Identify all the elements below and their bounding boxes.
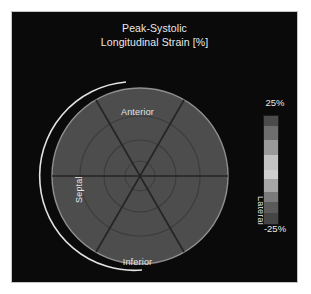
colorbar-gradient-strip [263, 115, 279, 225]
colorbar-min-label: -25% [252, 223, 298, 234]
plot-panel: Peak-Systolic Longitudinal Strain [%] [11, 11, 298, 283]
figure-root: Peak-Systolic Longitudinal Strain [%] [0, 0, 311, 294]
title-line-2: Longitudinal Strain [%] [12, 35, 297, 49]
label-septal: Septal [74, 176, 84, 203]
label-inferior: Inferior [30, 257, 245, 267]
title-line-1: Peak-Systolic [12, 21, 297, 35]
colorbar-max-label: 25% [252, 97, 298, 108]
label-anterior: Anterior [30, 107, 245, 117]
bullseye-plot[interactable]: Anterior Inferior Septal Lateral [30, 56, 245, 278]
bullseye-svg [30, 56, 245, 278]
page-title: Peak-Systolic Longitudinal Strain [%] [12, 21, 297, 49]
colorbar-legend: 25% -25% [252, 94, 298, 234]
